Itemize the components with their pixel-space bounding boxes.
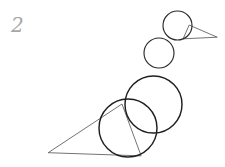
sketch-drawing (0, 0, 225, 167)
tail-triangle (49, 104, 142, 156)
neck-circle (144, 38, 174, 68)
lower-body-circle (99, 99, 157, 157)
sketch-canvas: 2 (0, 0, 225, 167)
head-circle (163, 11, 192, 40)
upper-body-circle (125, 76, 182, 133)
beak-triangle (184, 25, 218, 39)
